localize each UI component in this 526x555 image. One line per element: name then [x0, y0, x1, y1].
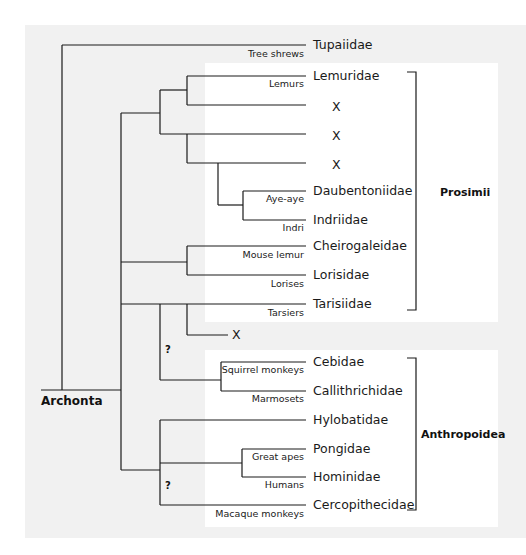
taxon-label: Cebidae	[313, 354, 364, 369]
common-name-label: Aye-aye	[266, 193, 304, 204]
common-name-label: Humans	[265, 479, 304, 490]
common-name-label: Tree shrews	[247, 48, 304, 59]
common-name-label: Lemurs	[269, 78, 304, 89]
uncertain-marker: ?	[165, 344, 171, 355]
anthropoidea-bracket	[407, 358, 416, 510]
taxon-label: Tarisiidae	[312, 296, 372, 311]
taxon-label: Daubentoniidae	[313, 183, 413, 198]
common-name-label: Mouse lemur	[242, 249, 304, 260]
taxon-label: X	[332, 99, 341, 114]
taxon-label: Cercopithecidae	[313, 497, 415, 512]
taxon-label: Lorisidae	[313, 267, 370, 282]
tree-branches	[41, 45, 306, 505]
taxon-label: Indriidae	[313, 212, 368, 227]
common-name-label: Great apes	[252, 451, 304, 462]
taxon-label: Pongidae	[313, 441, 371, 456]
common-name-label: Marmosets	[252, 393, 304, 404]
taxon-label: Hylobatidae	[313, 412, 388, 427]
taxon-label: X	[332, 128, 341, 143]
group-label-prosimii: Prosimii	[440, 186, 490, 199]
common-name-label: Tarsiers	[267, 307, 304, 318]
common-name-label: Indri	[283, 222, 304, 233]
uncertain-marker: ?	[165, 480, 171, 491]
taxon-label: Tupaiidae	[312, 37, 373, 52]
common-name-label: Macaque monkeys	[215, 508, 304, 519]
common-name-label: Lorises	[271, 278, 304, 289]
taxon-label: Callithrichidae	[313, 383, 403, 398]
taxon-label: X	[232, 327, 241, 342]
common-name-label: Squirrel monkeys	[222, 364, 304, 375]
taxon-label: X	[332, 157, 341, 172]
root-label: Archonta	[41, 394, 102, 408]
phylogenetic-tree: Tupaiidae Lemuridae X X X Daubentoniidae…	[0, 0, 526, 555]
taxon-label: Cheirogaleidae	[313, 238, 407, 253]
group-label-anthropoidea: Anthropoidea	[421, 428, 505, 441]
taxon-label: Hominidae	[313, 469, 381, 484]
taxon-label: Lemuridae	[313, 68, 380, 83]
